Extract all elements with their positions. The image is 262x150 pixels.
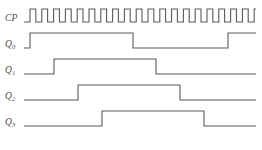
signal-label-q3: Q3 [5,118,16,128]
signal-label-cp: CP [5,14,18,24]
signal-label-q2-base: Q [5,91,12,101]
timing-diagram-figure: CP Q0 Q1 Q2 Q3 [0,0,262,150]
signal-label-q2: Q2 [5,92,16,102]
waveform-trace-q3 [24,111,256,126]
waveform-trace-cp [24,9,256,22]
signal-label-q0-sub: 0 [12,43,15,50]
signal-label-q2-sub: 2 [12,95,15,102]
waveform-canvas [0,0,262,150]
waveform-trace-q0 [24,33,256,48]
waveform-trace-q1 [24,59,256,74]
signal-label-q3-sub: 3 [12,121,15,128]
signal-label-q0-base: Q [5,39,12,49]
signal-label-q0: Q0 [5,40,16,50]
signal-label-q1-base: Q [5,65,12,75]
waveform-trace-q2 [24,85,256,100]
signal-label-cp-base: CP [5,13,18,23]
signal-label-q3-base: Q [5,117,12,127]
signal-label-q1-sub: 1 [12,69,15,76]
signal-label-q1: Q1 [5,66,16,76]
